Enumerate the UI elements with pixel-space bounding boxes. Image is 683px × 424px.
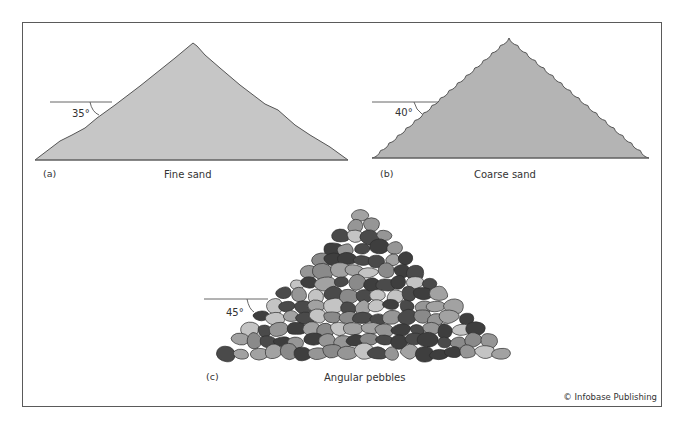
pebble [417,332,438,347]
pebble [438,324,452,339]
pebble [378,263,394,278]
fine-sand-pile [35,43,348,160]
angle-label-35: 35° [72,108,90,119]
angle-label-40: 40° [395,107,413,118]
pebble [355,243,370,254]
panel-tag-c: (c) [206,371,219,382]
caption-fine-sand: Fine sand [164,169,212,180]
pebble [475,346,495,359]
pebble [265,344,282,359]
pebble-pile [216,210,510,362]
pebble [429,286,447,300]
pebble [352,312,372,323]
pebble [276,287,292,299]
pebble [387,242,403,255]
pebble [332,229,350,242]
pebble [368,300,384,312]
pebble [343,323,363,335]
pebble [438,337,452,348]
pebble [349,274,366,290]
pebble [292,287,307,301]
pebble [370,239,389,254]
angle-label-45: 45° [226,307,244,318]
angle-arc [90,102,99,115]
pebble [334,277,348,287]
panel-tag-b: (b) [380,168,393,179]
angle-arc [414,102,422,114]
panel-tag-a: (a) [43,168,56,179]
angle-arc [247,299,254,312]
pebble [247,333,262,349]
coarse-sand-pile [372,38,649,158]
caption-angular-pebbles: Angular pebbles [324,372,405,383]
pebble [233,349,248,359]
pebble [391,275,406,289]
pebble [382,299,398,309]
pebble [370,289,386,300]
pebble [231,333,249,345]
pebble [398,252,413,265]
pebble [216,346,235,362]
pebble [426,301,445,312]
panel-coarse-sand: 40° (b) Coarse sand [372,38,649,180]
pebble [444,347,461,358]
panel-fine-sand: 35° (a) Fine sand [35,43,348,180]
pebble [391,324,411,336]
pebble [492,348,511,359]
pebble [279,301,295,311]
pebble [324,312,341,323]
caption-coarse-sand: Coarse sand [474,169,536,180]
pebble [324,298,344,314]
angle-of-repose-figure: 35° (a) Fine sand 40° (b) Coarse sand 45… [0,0,683,424]
pebble [439,310,459,323]
panel-angular-pebbles: 45° (c) Angular pebbles [204,210,510,383]
publisher-credit: © Infobase Publishing [563,392,657,402]
